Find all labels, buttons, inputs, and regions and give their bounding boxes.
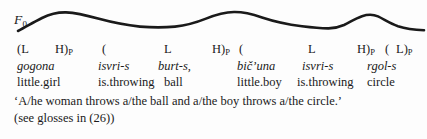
prosody-figure: F0 (L H)P ( L H)P ( L H)P ( L)P gogona i… bbox=[0, 0, 427, 139]
f0-axis-label: F0 bbox=[14, 13, 27, 29]
gloss-word: is.throwing bbox=[297, 74, 354, 90]
gloss-word: little.girl bbox=[17, 74, 60, 90]
gloss-word: little.boy bbox=[237, 74, 282, 90]
f0-pitch-contour bbox=[0, 0, 427, 44]
transliteration-word: isvri-s bbox=[302, 58, 333, 74]
gloss-word: circle bbox=[367, 74, 395, 90]
transliteration-tier-row: gogona isvri-s burt-s, bič’una isvri-s r… bbox=[0, 58, 427, 74]
gloss-tier-row: little.girl is.throwing ball little.boy … bbox=[0, 74, 427, 90]
f0-contour-path bbox=[18, 12, 424, 31]
f0-symbol: F bbox=[14, 12, 22, 27]
transliteration-word: rgol-s bbox=[367, 58, 396, 74]
transliteration-word: bič’una bbox=[237, 58, 275, 74]
glosses-note-line: (see glosses in (26)) bbox=[14, 110, 114, 126]
gloss-word: ball bbox=[164, 74, 183, 90]
transliteration-word: burt-s, bbox=[158, 58, 191, 74]
interlinear-gloss-block: (L H)P ( L H)P ( L H)P ( L)P gogona isvr… bbox=[0, 41, 427, 90]
f0-contour-area: F0 bbox=[0, 0, 427, 44]
f0-subscript: 0 bbox=[22, 19, 27, 29]
free-translation-line: ‘A/he woman throws a/the ball and a/the … bbox=[14, 93, 342, 109]
gloss-word: is.throwing bbox=[98, 74, 155, 90]
tone-tier-row: (L H)P ( L H)P ( L H)P ( L)P bbox=[0, 41, 427, 58]
transliteration-word: isvri-s bbox=[98, 58, 129, 74]
transliteration-word: gogona bbox=[17, 58, 55, 74]
